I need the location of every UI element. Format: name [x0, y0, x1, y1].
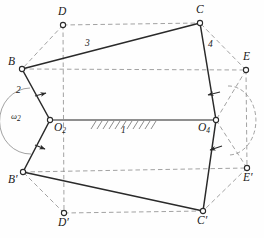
- rocker-point-E-O4-line: [216, 70, 246, 120]
- coupler-point-D-B-line: [22, 25, 63, 69]
- label-O2: O2: [54, 122, 66, 134]
- label-D-prime: D′: [58, 217, 69, 229]
- coupler-point-Dp-Bp-line: [23, 172, 64, 213]
- label-link-1: 1: [121, 126, 126, 136]
- linkage-drawing: [0, 0, 264, 238]
- label-C: C: [196, 4, 204, 16]
- rocker-4-upper-line: [200, 23, 216, 120]
- label-O4: O4: [198, 122, 210, 134]
- coupler-point-D-C-line: [63, 23, 200, 25]
- label-omega-2: ω2: [11, 112, 21, 122]
- label-link-4: 4: [208, 40, 213, 50]
- coupler-point-Dp-Cp-line: [64, 211, 203, 213]
- label-D: D: [58, 6, 66, 18]
- label-E: E: [243, 51, 250, 63]
- rocker-point-Ep-O4-line: [216, 120, 247, 168]
- coupler-3-lower-line: [23, 172, 203, 211]
- joint-D-prime[interactable]: [61, 210, 66, 215]
- joint-D[interactable]: [60, 22, 65, 27]
- label-link-3: 3: [85, 39, 90, 49]
- label-O4-sub: 4: [206, 126, 210, 135]
- guide-Bp-to-Ep: [23, 168, 247, 172]
- joint-O2[interactable]: [47, 117, 52, 122]
- label-E-prime: E′: [243, 172, 253, 184]
- joint-C-prime[interactable]: [200, 208, 205, 213]
- rocker4-sweep-arc: [228, 86, 256, 155]
- label-omega-sub: 2: [17, 114, 21, 123]
- label-B-prime: B′: [8, 174, 18, 186]
- label-B: B: [8, 56, 15, 68]
- label-O2-sub: 2: [62, 126, 66, 135]
- joint-C[interactable]: [197, 20, 202, 25]
- rocker-point-Ep-Cp-line: [203, 168, 247, 211]
- joint-B[interactable]: [19, 66, 24, 71]
- joint-E-prime[interactable]: [244, 165, 249, 170]
- label-link-2: 2: [16, 86, 21, 96]
- crank-2-upper-line: [22, 69, 50, 120]
- guide-B-to-E: [22, 69, 246, 70]
- kinematic-diagram-figure: D C B E O2 O4 B′ E′ D′ C′ 1 2 3 4 ω2: [0, 0, 264, 238]
- joint-B-prime[interactable]: [20, 169, 25, 174]
- rocker-rotation-arrow-upper: [208, 92, 220, 95]
- label-C-prime: C′: [197, 215, 207, 227]
- joint-O4[interactable]: [213, 117, 218, 122]
- path-E-to-Ep-line: [246, 70, 247, 168]
- joint-E[interactable]: [243, 67, 248, 72]
- coupler-3-upper-line: [22, 23, 200, 69]
